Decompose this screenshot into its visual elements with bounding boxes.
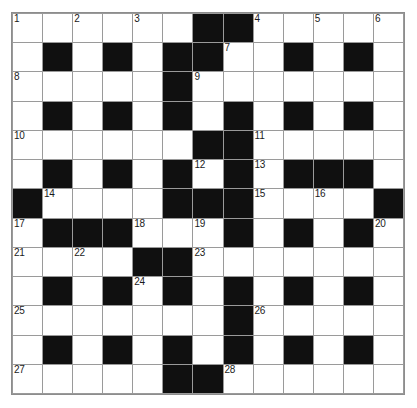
crossword-letter-cell[interactable] — [73, 160, 102, 188]
crossword-letter-cell[interactable]: 12 — [193, 160, 222, 188]
crossword-letter-cell[interactable]: 1 — [13, 14, 42, 42]
crossword-letter-cell[interactable] — [163, 131, 192, 159]
crossword-letter-cell[interactable] — [133, 43, 162, 71]
crossword-letter-cell[interactable] — [43, 131, 72, 159]
crossword-letter-cell[interactable] — [103, 14, 132, 42]
crossword-letter-cell[interactable]: 20 — [374, 219, 403, 247]
crossword-letter-cell[interactable]: 21 — [13, 248, 42, 276]
crossword-letter-cell[interactable]: 8 — [13, 72, 42, 100]
crossword-letter-cell[interactable] — [133, 131, 162, 159]
crossword-letter-cell[interactable]: 10 — [13, 131, 42, 159]
crossword-letter-cell[interactable] — [374, 160, 403, 188]
crossword-letter-cell[interactable] — [133, 160, 162, 188]
crossword-letter-cell[interactable] — [344, 248, 373, 276]
crossword-letter-cell[interactable] — [284, 72, 313, 100]
crossword-letter-cell[interactable]: 28 — [224, 365, 253, 393]
crossword-letter-cell[interactable] — [193, 102, 222, 130]
crossword-letter-cell[interactable] — [314, 306, 343, 334]
crossword-letter-cell[interactable]: 17 — [13, 219, 42, 247]
crossword-letter-cell[interactable] — [254, 336, 283, 364]
crossword-letter-cell[interactable] — [163, 306, 192, 334]
crossword-letter-cell[interactable] — [254, 72, 283, 100]
crossword-letter-cell[interactable]: 15 — [254, 189, 283, 217]
crossword-letter-cell[interactable] — [314, 131, 343, 159]
crossword-letter-cell[interactable] — [344, 189, 373, 217]
crossword-letter-cell[interactable]: 5 — [314, 14, 343, 42]
crossword-letter-cell[interactable] — [133, 365, 162, 393]
crossword-letter-cell[interactable]: 16 — [314, 189, 343, 217]
crossword-letter-cell[interactable] — [314, 219, 343, 247]
crossword-letter-cell[interactable] — [73, 277, 102, 305]
crossword-letter-cell[interactable] — [43, 14, 72, 42]
crossword-letter-cell[interactable] — [344, 131, 373, 159]
crossword-letter-cell[interactable] — [374, 306, 403, 334]
crossword-letter-cell[interactable] — [314, 72, 343, 100]
crossword-letter-cell[interactable] — [13, 43, 42, 71]
crossword-letter-cell[interactable]: 2 — [73, 14, 102, 42]
crossword-letter-cell[interactable] — [73, 365, 102, 393]
crossword-letter-cell[interactable]: 11 — [254, 131, 283, 159]
crossword-letter-cell[interactable] — [374, 365, 403, 393]
crossword-letter-cell[interactable] — [374, 131, 403, 159]
crossword-letter-cell[interactable] — [103, 306, 132, 334]
crossword-letter-cell[interactable] — [103, 365, 132, 393]
crossword-letter-cell[interactable] — [284, 131, 313, 159]
crossword-letter-cell[interactable] — [374, 248, 403, 276]
crossword-letter-cell[interactable]: 9 — [193, 72, 222, 100]
crossword-letter-cell[interactable] — [254, 43, 283, 71]
crossword-letter-cell[interactable]: 3 — [133, 14, 162, 42]
crossword-letter-cell[interactable] — [103, 131, 132, 159]
crossword-letter-cell[interactable] — [163, 219, 192, 247]
crossword-letter-cell[interactable] — [254, 277, 283, 305]
crossword-letter-cell[interactable]: 24 — [133, 277, 162, 305]
crossword-letter-cell[interactable] — [13, 277, 42, 305]
crossword-letter-cell[interactable] — [73, 102, 102, 130]
crossword-letter-cell[interactable] — [133, 102, 162, 130]
crossword-letter-cell[interactable] — [314, 336, 343, 364]
crossword-letter-cell[interactable]: 27 — [13, 365, 42, 393]
crossword-letter-cell[interactable]: 25 — [13, 306, 42, 334]
crossword-letter-cell[interactable] — [254, 219, 283, 247]
crossword-letter-cell[interactable] — [374, 336, 403, 364]
crossword-letter-cell[interactable] — [133, 72, 162, 100]
crossword-letter-cell[interactable] — [344, 72, 373, 100]
crossword-letter-cell[interactable]: 14 — [43, 189, 72, 217]
crossword-letter-cell[interactable] — [254, 102, 283, 130]
crossword-letter-cell[interactable] — [284, 306, 313, 334]
crossword-letter-cell[interactable]: 4 — [254, 14, 283, 42]
crossword-letter-cell[interactable] — [73, 131, 102, 159]
crossword-letter-cell[interactable] — [374, 277, 403, 305]
crossword-letter-cell[interactable] — [314, 365, 343, 393]
crossword-letter-cell[interactable]: 6 — [374, 14, 403, 42]
crossword-letter-cell[interactable] — [13, 336, 42, 364]
crossword-letter-cell[interactable] — [43, 72, 72, 100]
crossword-letter-cell[interactable] — [43, 248, 72, 276]
crossword-letter-cell[interactable] — [133, 336, 162, 364]
crossword-letter-cell[interactable] — [103, 248, 132, 276]
crossword-letter-cell[interactable] — [73, 43, 102, 71]
crossword-letter-cell[interactable] — [73, 72, 102, 100]
crossword-letter-cell[interactable] — [73, 336, 102, 364]
crossword-letter-cell[interactable] — [284, 14, 313, 42]
crossword-letter-cell[interactable]: 18 — [133, 219, 162, 247]
crossword-letter-cell[interactable] — [73, 189, 102, 217]
crossword-letter-cell[interactable] — [13, 102, 42, 130]
crossword-letter-cell[interactable] — [314, 102, 343, 130]
crossword-letter-cell[interactable] — [103, 72, 132, 100]
crossword-letter-cell[interactable]: 19 — [193, 219, 222, 247]
crossword-grid[interactable]: 1234567891011121314151617181920212223242… — [11, 12, 405, 395]
crossword-letter-cell[interactable] — [314, 43, 343, 71]
crossword-letter-cell[interactable]: 26 — [254, 306, 283, 334]
crossword-letter-cell[interactable] — [284, 189, 313, 217]
crossword-letter-cell[interactable]: 22 — [73, 248, 102, 276]
crossword-letter-cell[interactable] — [193, 277, 222, 305]
crossword-letter-cell[interactable] — [103, 189, 132, 217]
crossword-letter-cell[interactable] — [254, 248, 283, 276]
crossword-letter-cell[interactable] — [224, 72, 253, 100]
crossword-letter-cell[interactable] — [284, 365, 313, 393]
crossword-letter-cell[interactable] — [344, 365, 373, 393]
crossword-letter-cell[interactable] — [374, 72, 403, 100]
crossword-letter-cell[interactable] — [163, 14, 192, 42]
crossword-letter-cell[interactable] — [13, 160, 42, 188]
crossword-letter-cell[interactable] — [314, 248, 343, 276]
